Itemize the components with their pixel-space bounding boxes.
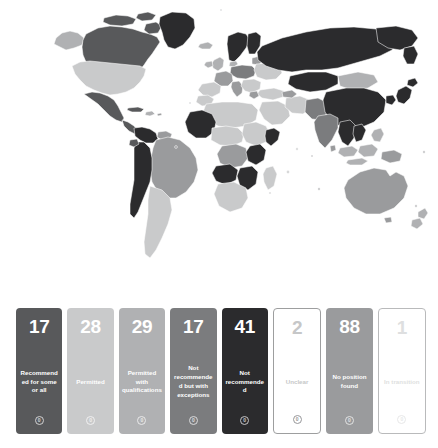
country-cuba[interactable] [127, 107, 144, 112]
legend-card-not-recommended-but-with-exceptions[interactable]: 17 Not recommended but with exceptions 0 [170, 308, 216, 434]
country-kazakhstan[interactable] [288, 72, 338, 92]
island-dot-7 [423, 151, 425, 153]
legend-card-label: In transition [383, 378, 420, 387]
country-turkey[interactable] [257, 88, 284, 100]
island-dot-9 [189, 102, 191, 104]
legend-card-label: Recommended for some or all [18, 369, 60, 396]
country-india[interactable] [314, 114, 338, 148]
legend-card-permitted[interactable]: 28 Permitted 0 [67, 308, 113, 434]
country-tasmania[interactable] [384, 217, 392, 223]
count-badge-icon: 0 [397, 415, 406, 424]
country-hispaniola[interactable] [145, 111, 155, 116]
legend-card-permitted-with-qualifications[interactable]: 29 Permitted with qualifications 0 [119, 308, 165, 434]
legend-card-count: 17 [183, 317, 204, 336]
country-sri-lanka[interactable] [330, 145, 336, 152]
count-badge-icon: 0 [137, 416, 146, 425]
legend-card-count: 2 [292, 318, 302, 337]
world-map-svg[interactable] [0, 0, 438, 292]
count-badge-icon: 0 [35, 416, 44, 425]
legend-card-no-position-found[interactable]: 88 No position found 0 [326, 308, 372, 434]
country-ireland[interactable] [204, 61, 213, 68]
world-map-panel [0, 0, 438, 292]
country-canada-arctic-1[interactable] [103, 15, 136, 26]
count-badge-icon: 0 [240, 416, 249, 425]
country-iberia[interactable] [198, 82, 221, 97]
legend-card-count: 1 [397, 318, 407, 337]
legend-card-count: 17 [29, 317, 50, 336]
country-new-zealand-north[interactable] [418, 208, 428, 219]
legend-card-badge: 0 [326, 416, 372, 425]
country-south-africa[interactable] [214, 182, 248, 212]
country-greece[interactable] [249, 91, 259, 99]
island-dot-8 [311, 155, 313, 157]
country-japan-north[interactable] [407, 78, 418, 87]
count-badge-icon: 0 [293, 415, 302, 424]
country-japan[interactable] [396, 86, 412, 104]
country-vietnam[interactable] [353, 124, 366, 142]
count-badge-icon: 0 [86, 416, 95, 425]
country-greenland[interactable] [159, 12, 195, 49]
legend-card-badge: 0 [222, 416, 268, 425]
legend-card-unclear[interactable]: 2 Unclear 0 [273, 308, 321, 434]
country-dr-congo[interactable] [217, 144, 248, 168]
island-dot-3 [296, 148, 298, 150]
legend-card-badge: 0 [274, 415, 320, 424]
country-papua-new-guinea[interactable] [381, 150, 402, 163]
country-united-kingdom[interactable] [212, 57, 224, 71]
legend-card-label: Unclear [285, 378, 310, 387]
country-kenya-tanzania[interactable] [246, 144, 266, 165]
country-indonesia-borneo[interactable] [358, 144, 378, 157]
country-mexico[interactable] [84, 92, 124, 122]
legend-card-badge: 0 [67, 416, 113, 425]
legend-card-label: No position found [328, 373, 370, 391]
legend-card-label: Not recommended [224, 369, 266, 396]
country-puerto-rico[interactable] [157, 113, 162, 116]
country-new-zealand-south[interactable] [411, 218, 423, 229]
country-italy[interactable] [231, 81, 243, 97]
country-canada-arctic-2[interactable] [136, 12, 156, 21]
country-germany-poland[interactable] [230, 65, 256, 79]
country-indonesia-java[interactable] [346, 158, 368, 165]
island-dot-1 [175, 146, 178, 149]
country-mongolia[interactable] [338, 72, 378, 90]
country-philippines[interactable] [371, 128, 384, 142]
country-norway-sweden[interactable] [227, 32, 250, 62]
count-badge-icon: 0 [189, 416, 198, 425]
legend-card-badge: 0 [170, 416, 216, 425]
country-sahel[interactable] [211, 126, 244, 146]
country-indonesia-sumatra[interactable] [338, 146, 358, 157]
legend-card-count: 28 [80, 317, 101, 336]
legend-card-label: Not recommended but with exceptions [172, 364, 214, 400]
legend-card-recommended-for-some-or-all[interactable]: 17 Recommended for some or all 0 [16, 308, 62, 434]
island-dot-4 [269, 192, 271, 194]
legend-card-not-recommended[interactable]: 41 Not recommended 0 [222, 308, 268, 434]
island-dot-10 [220, 9, 222, 11]
country-russia-kamchatka[interactable] [403, 46, 418, 64]
infographic-page: 17 Recommended for some or all 0 28 Perm… [0, 0, 438, 448]
country-balkans[interactable] [241, 79, 261, 93]
country-australia[interactable] [344, 168, 408, 214]
legend-card-badge: 0 [119, 416, 165, 425]
legend-card-badge: 0 [379, 415, 425, 424]
count-badge-icon: 0 [345, 416, 354, 425]
legend-card-label: Permitted with qualifications [121, 369, 163, 396]
legend-card-row: 17 Recommended for some or all 0 28 Perm… [16, 308, 426, 434]
legend-card-count: 29 [132, 317, 153, 336]
country-somalia[interactable] [265, 128, 280, 146]
legend-card-badge: 0 [16, 416, 62, 425]
country-alaska[interactable] [54, 31, 84, 50]
legend-card-label: Permitted [75, 378, 106, 387]
island-dot-2 [287, 171, 290, 174]
country-argentina[interactable] [144, 186, 172, 258]
island-dot-6 [415, 205, 417, 207]
country-madagascar[interactable] [263, 166, 277, 190]
country-iceland[interactable] [198, 42, 213, 49]
country-united-states[interactable] [72, 61, 146, 95]
legend-card-count: 41 [234, 317, 255, 336]
island-dot-5 [318, 188, 320, 190]
legend-card-count: 88 [339, 317, 360, 336]
legend-card-in-transition[interactable]: 1 In transition 0 [378, 308, 426, 434]
country-korea[interactable] [386, 95, 396, 105]
